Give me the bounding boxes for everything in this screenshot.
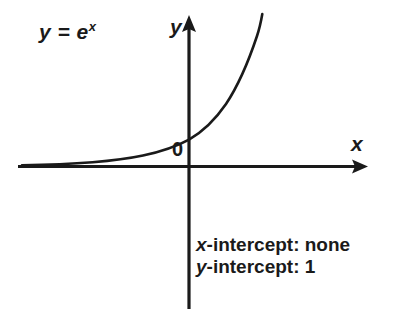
y-intercept-variable: y — [196, 256, 207, 277]
origin-label: 0 — [172, 139, 183, 159]
equation-base: y = e — [39, 20, 89, 43]
y-intercept-text: -intercept: 1 — [207, 256, 316, 277]
y-intercept-line: y-intercept: 1 — [196, 256, 350, 278]
x-intercept-line: x-intercept: none — [196, 234, 350, 256]
y-axis-label: y — [170, 16, 182, 37]
equation-label: y = ex — [39, 20, 97, 42]
intercept-annotations: x-intercept: none y-intercept: 1 — [196, 234, 350, 278]
x-axis-label: x — [351, 133, 363, 154]
x-intercept-text: -intercept: none — [207, 234, 351, 255]
equation-exponent: x — [89, 19, 97, 34]
exponential-function-figure: y = ex y x 0 x-intercept: none y-interce… — [0, 0, 393, 329]
graph-canvas — [0, 0, 393, 329]
x-intercept-variable: x — [196, 234, 207, 255]
